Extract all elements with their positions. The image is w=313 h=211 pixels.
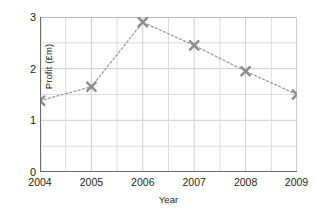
y-tick-label-2: 2 [30,63,36,74]
plot-canvas [40,17,297,172]
y-tick-label-1: 1 [30,115,36,126]
x-tick-label-2009: 2009 [285,177,308,188]
x-tick-label-2008: 2008 [234,177,257,188]
x-tick-label-2005: 2005 [80,177,103,188]
chart-title-remnant [0,0,313,5]
x-tick-label-2006: 2006 [131,177,154,188]
y-tick-label-3: 3 [30,12,36,23]
x-tick-label-2004: 2004 [28,177,51,188]
profit-by-year-chart: 3 2 1 0 2004 2005 2006 2007 2008 2009 Pr… [0,0,313,211]
x-axis-title: Year [40,194,297,205]
gridlines [40,17,297,172]
x-tick-label-2007: 2007 [183,177,206,188]
y-axis-title: Profit (£m) [43,19,54,115]
plot-area: 3 2 1 0 2004 2005 2006 2007 2008 2009 Pr… [40,17,297,172]
